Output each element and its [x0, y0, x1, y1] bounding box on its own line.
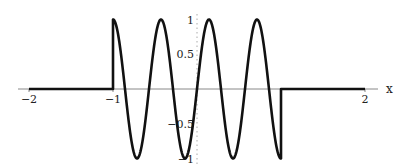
x-tick-label: −1 [105, 93, 121, 106]
x-tick-label: −2 [21, 93, 37, 106]
y-tick-label: −0.5 [167, 118, 194, 131]
x-axis-label: x [386, 82, 393, 96]
function-curve [29, 20, 365, 159]
chart: −2−1210.5−0.5−1 x [0, 0, 409, 166]
x-tick-label: 2 [362, 93, 369, 106]
y-tick-label: 0.5 [177, 48, 195, 61]
y-tick-label: 1 [187, 14, 194, 27]
